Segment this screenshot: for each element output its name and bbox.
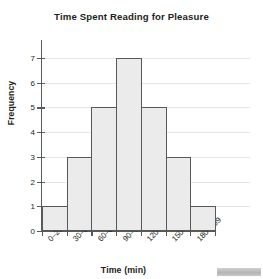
y-tick-label-7: 7 [25,54,35,63]
plot-area [42,47,215,231]
scan-edge-artifact [217,268,261,276]
y-tick-label-6: 6 [25,78,35,87]
y-axis-title: Frequency [6,48,16,158]
x-tick-mark-0 [42,232,43,236]
x-tick-mark-4 [141,232,142,236]
gridline-7 [42,58,250,59]
y-tick-label-5: 5 [25,103,35,112]
y-tick-mark-4 [37,132,45,133]
x-tick-mark-7 [215,232,216,236]
y-tick-label-0: 0 [25,227,35,236]
bar [166,157,192,231]
x-tick-mark-6 [190,232,191,236]
y-tick-mark-3 [37,157,45,158]
x-tick-mark-5 [166,232,167,236]
y-tick-mark-7 [37,58,45,59]
x-axis-title: Time (min) [0,265,247,275]
gridline-6 [42,83,250,84]
y-tick-mark-0 [37,231,45,232]
bar [141,107,167,231]
chart-title: Time Spent Reading for Pleasure [0,11,263,22]
x-tick-mark-2 [91,232,92,236]
y-tick-label-3: 3 [25,152,35,161]
x-tick-mark-1 [67,232,68,236]
bar [42,206,68,231]
y-tick-label-1: 1 [25,202,35,211]
y-tick-label-2: 2 [25,177,35,186]
bar [190,206,216,231]
y-tick-label-4: 4 [25,128,35,137]
x-tick-mark-3 [116,232,117,236]
y-tick-mark-6 [37,83,45,84]
bar [67,157,93,231]
bar [91,107,117,231]
y-tick-mark-5 [37,107,45,108]
y-tick-mark-2 [37,182,45,183]
bar [116,58,142,231]
